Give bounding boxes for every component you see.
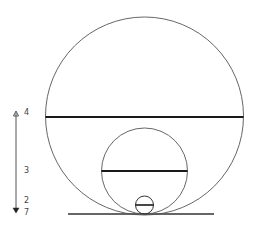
scale-label-3: 3: [24, 167, 29, 175]
scale-label-4: 4: [24, 109, 29, 117]
arrow-down-filled-icon: [13, 208, 19, 213]
scale-label-7: 7: [24, 209, 29, 217]
nested-circles-diagram: [0, 0, 254, 228]
scale-label-2: 2: [24, 197, 29, 205]
